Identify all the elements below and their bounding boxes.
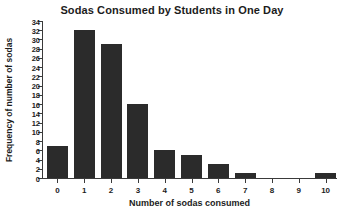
y-tick-10: 10	[42, 132, 43, 133]
bar-6	[208, 164, 229, 178]
chart-title: Sodas Consumed by Students in One Day	[0, 4, 344, 16]
x-tick-label-2: 2	[109, 186, 113, 195]
x-axis-title: Number of sodas consumed	[42, 198, 337, 208]
bar-2	[101, 44, 122, 178]
y-tick-28: 28	[42, 49, 43, 50]
y-tick-label: 0	[36, 174, 40, 183]
x-tick-label-1: 1	[82, 186, 86, 195]
plot-area: 0246810121416182022242628303234 01234567…	[42, 21, 337, 179]
y-tick-16: 16	[42, 104, 43, 105]
x-tick-mark-0	[57, 179, 58, 183]
x-tick-mark-8	[272, 179, 273, 183]
y-tick-label: 32	[32, 26, 40, 35]
y-tick-8: 8	[42, 141, 43, 142]
y-tick-32: 32	[42, 30, 43, 31]
y-tick-label: 16	[32, 100, 40, 109]
y-axis-line	[42, 21, 43, 179]
x-tick-mark-6	[218, 179, 219, 183]
y-tick-20: 20	[42, 86, 43, 87]
x-tick-mark-3	[138, 179, 139, 183]
y-tick-label: 18	[32, 91, 40, 100]
bar-chart: Sodas Consumed by Students in One Day Fr…	[0, 0, 344, 219]
y-tick-label: 12	[32, 119, 40, 128]
y-tick-label: 10	[32, 128, 40, 137]
x-tick-mark-9	[299, 179, 300, 183]
x-tick-label-9: 9	[297, 186, 301, 195]
y-tick-label: 28	[32, 45, 40, 54]
y-tick-30: 30	[42, 39, 43, 40]
y-tick-6: 6	[42, 150, 43, 151]
y-tick-label: 24	[32, 63, 40, 72]
y-tick-label: 34	[32, 17, 40, 26]
x-tick-label-5: 5	[189, 186, 193, 195]
y-tick-34: 34	[42, 21, 43, 22]
y-tick-label: 20	[32, 82, 40, 91]
bar-0	[47, 146, 68, 178]
y-tick-label: 14	[32, 109, 40, 118]
x-tick-label-6: 6	[216, 186, 220, 195]
y-tick-label: 22	[32, 72, 40, 81]
y-tick-label: 4	[36, 156, 40, 165]
x-tick-label-0: 0	[55, 186, 59, 195]
x-tick-label-10: 10	[321, 186, 330, 195]
y-tick-14: 14	[42, 113, 43, 114]
bar-7	[235, 173, 256, 178]
y-tick-24: 24	[42, 67, 43, 68]
y-tick-4: 4	[42, 160, 43, 161]
x-tick-mark-10	[326, 179, 327, 183]
y-tick-26: 26	[42, 58, 43, 59]
y-axis-title-container: Frequency of number of sodas	[2, 21, 16, 179]
bar-3	[127, 104, 148, 178]
x-tick-mark-5	[192, 179, 193, 183]
y-axis-title: Frequency of number of sodas	[4, 38, 14, 162]
bar-5	[181, 155, 202, 178]
y-tick-label: 30	[32, 35, 40, 44]
y-tick-0: 0	[42, 178, 43, 179]
x-tick-label-3: 3	[136, 186, 140, 195]
y-tick-2: 2	[42, 169, 43, 170]
y-tick-22: 22	[42, 76, 43, 77]
x-tick-label-4: 4	[162, 186, 166, 195]
x-tick-mark-2	[111, 179, 112, 183]
y-tick-label: 6	[36, 146, 40, 155]
bar-1	[74, 30, 95, 178]
y-tick-12: 12	[42, 123, 43, 124]
x-axis-line	[42, 178, 337, 179]
y-tick-label: 2	[36, 165, 40, 174]
x-tick-mark-4	[165, 179, 166, 183]
bar-10	[315, 173, 336, 178]
y-tick-label: 8	[36, 137, 40, 146]
x-tick-label-7: 7	[243, 186, 247, 195]
x-tick-label-8: 8	[270, 186, 274, 195]
bar-4	[154, 150, 175, 178]
x-tick-mark-1	[84, 179, 85, 183]
y-tick-18: 18	[42, 95, 43, 96]
y-tick-label: 26	[32, 54, 40, 63]
x-tick-mark-7	[245, 179, 246, 183]
